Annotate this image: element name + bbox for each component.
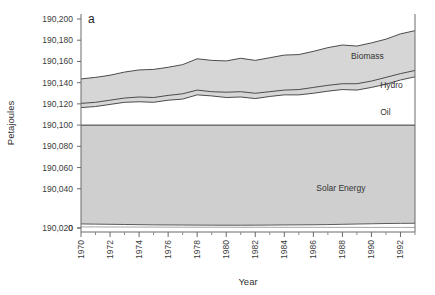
series-label-solar-energy: Solar Energy [316, 183, 366, 193]
y-axis-title: Petajoules [5, 101, 16, 146]
x-tick-label: 1974 [134, 240, 144, 259]
x-tick-label: 1984 [279, 240, 289, 259]
x-axis-tick-labels: 1970197219741976197819801982198419861988… [76, 240, 405, 259]
series-label-biomass: Biomass [351, 51, 384, 61]
y-tick-label: 190,140 [42, 78, 73, 88]
y-tick-label: 190,100 [42, 120, 73, 130]
y-tick-label: 190,180 [42, 35, 73, 45]
x-tick-label: 1970 [76, 240, 86, 259]
y-axis-tick-labels: 0190,020190,040190,060190,080190,100190,… [42, 14, 73, 233]
y-tick-label: 190,020 [42, 223, 73, 233]
x-tick-label: 1976 [163, 240, 173, 259]
panel-label: a [88, 12, 95, 26]
x-tick-label: 1986 [308, 240, 318, 259]
x-tick-label: 1978 [192, 240, 202, 259]
x-tick-label: 1972 [105, 240, 115, 259]
area-solar-energy [81, 125, 415, 225]
x-axis-ticks [81, 232, 415, 237]
y-tick-label: 190,040 [42, 184, 73, 194]
area-chart: 0190,020190,040190,060190,080190,100190,… [0, 0, 435, 295]
x-tick-label: 1980 [221, 240, 231, 259]
series-label-oil: Oil [380, 107, 391, 117]
x-tick-label: 1988 [337, 240, 347, 259]
x-axis-title: Year [238, 276, 257, 287]
y-tick-label: 190,120 [42, 99, 73, 109]
figure-panel: 0190,020190,040190,060190,080190,100190,… [0, 0, 435, 295]
x-tick-label: 1992 [395, 240, 405, 259]
y-tick-label: 190,200 [42, 14, 73, 24]
x-tick-label: 1990 [366, 240, 376, 259]
series-label-hydro: Hydro [380, 80, 403, 90]
x-tick-label: 1982 [250, 240, 260, 259]
y-axis-ticks [77, 19, 81, 228]
y-tick-label: 190,060 [42, 163, 73, 173]
y-tick-label: 190,160 [42, 56, 73, 66]
y-tick-label: 190,080 [42, 141, 73, 151]
